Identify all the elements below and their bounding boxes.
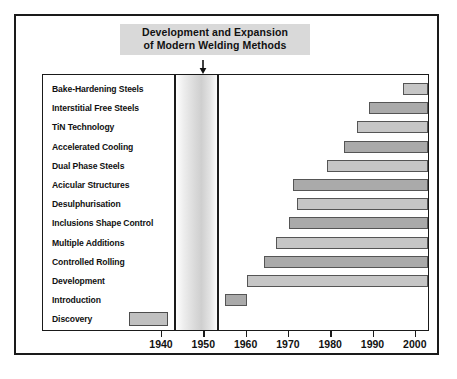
axis-tick [288, 331, 289, 337]
axis-tick-label: 1950 [192, 338, 215, 350]
down-arrow-icon [198, 60, 208, 74]
timeline-bar [264, 256, 429, 268]
x-axis: 1940195019601970198019902000 [42, 331, 429, 361]
timeline-bar [297, 198, 428, 210]
chart-title-line-2: of Modern Welding Methods [124, 39, 306, 52]
chart-title-line-1: Development and Expansion [124, 26, 306, 39]
discovery-legend-swatch [129, 312, 168, 326]
timeline-row: TiN Technology [43, 117, 428, 137]
axis-tick-label: 1940 [149, 338, 172, 350]
row-label: Discovery [52, 309, 92, 329]
timeline-row: Bake-Hardening Steels [43, 79, 428, 99]
timeline-bar [369, 102, 428, 114]
timeline-row: Controlled Rolling [43, 252, 428, 272]
row-label: Desulphurisation [52, 194, 121, 214]
row-label: Controlled Rolling [52, 252, 125, 272]
timeline-row: Dual Phase Steels [43, 156, 428, 176]
timeline-bar [276, 237, 428, 249]
chart-title: Development and Expansion of Modern Weld… [120, 24, 310, 55]
axis-tick-label: 1990 [361, 338, 384, 350]
row-label: Bake-Hardening Steels [52, 79, 144, 99]
row-label: Multiple Additions [52, 233, 124, 253]
timeline-bar [403, 83, 428, 95]
figure-frame: Development and Expansion of Modern Weld… [14, 14, 439, 355]
row-label: Interstitial Free Steels [52, 98, 139, 118]
timeline-row: Accelerated Cooling [43, 137, 428, 157]
timeline-row: Multiple Additions [43, 233, 428, 253]
timeline-bar [357, 121, 429, 133]
row-label: Inclusions Shape Control [52, 213, 153, 233]
row-label: Development [52, 271, 105, 291]
chart-plot-area: Bake-Hardening SteelsInterstitial Free S… [42, 74, 429, 331]
row-label: Dual Phase Steels [52, 156, 124, 176]
row-label: Acicular Structures [52, 175, 129, 195]
row-label: Accelerated Cooling [52, 137, 133, 157]
timeline-row: Desulphurisation [43, 194, 428, 214]
axis-tick [373, 331, 374, 337]
axis-tick-label: 1980 [319, 338, 342, 350]
axis-tick [415, 331, 416, 337]
axis-tick [161, 331, 162, 337]
timeline-bar [293, 179, 428, 191]
timeline-row: Discovery [43, 309, 428, 329]
axis-tick [203, 331, 204, 337]
timeline-row: Interstitial Free Steels [43, 98, 428, 118]
timeline-bar [327, 160, 429, 172]
row-label: TiN Technology [52, 117, 114, 137]
timeline-bar [289, 217, 429, 229]
timeline-row: Inclusions Shape Control [43, 213, 428, 233]
axis-tick-label: 2000 [403, 338, 426, 350]
timeline-bar [344, 141, 429, 153]
timeline-row: Introduction [43, 290, 428, 310]
axis-tick-label: 1970 [276, 338, 299, 350]
timeline-row: Development [43, 271, 428, 291]
axis-tick [330, 331, 331, 337]
row-label: Introduction [52, 290, 101, 310]
timeline-bar [247, 275, 429, 287]
axis-tick [246, 331, 247, 337]
timeline-bar [225, 294, 246, 306]
timeline-row: Acicular Structures [43, 175, 428, 195]
axis-tick-label: 1960 [234, 338, 257, 350]
